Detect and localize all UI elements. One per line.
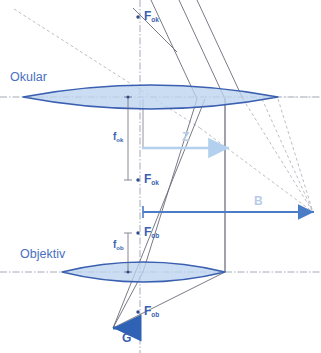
diagram-svg xyxy=(0,0,321,353)
focal-length-label-f-ok: fok xyxy=(113,132,123,142)
focal-length-measures xyxy=(124,97,132,272)
f-ok-length-sub: ok xyxy=(116,137,123,143)
dashed-construction-rays xyxy=(14,9,318,212)
f-ok-top-sub: ok xyxy=(151,16,159,23)
f-ok-mid-sub: ok xyxy=(151,179,159,186)
z-label: Z xyxy=(182,131,189,143)
okular-lens xyxy=(23,85,278,109)
focal-point-label-f-ok-top: Fok xyxy=(144,10,159,22)
objektiv-center-dot xyxy=(127,271,130,274)
f-ob-length-sub: ob xyxy=(116,245,123,251)
objektiv-label: Objektiv xyxy=(20,248,65,261)
focal-point-label-f-ok-mid: Fok xyxy=(144,173,159,185)
focal-dot-f-ob-lower xyxy=(136,310,139,313)
focal-dot-f-ok-mid xyxy=(136,178,139,181)
b-label: B xyxy=(254,195,263,207)
focal-dot-f-ok-top xyxy=(136,15,139,18)
okular-center-dot xyxy=(127,96,130,99)
focal-point-label-f-ob-lower: Fob xyxy=(144,305,159,317)
focal-dot-f-ob-upper xyxy=(136,231,139,234)
f-ob-lower-sub: ob xyxy=(151,311,159,318)
focal-point-label-f-ob-upper: Fob xyxy=(144,226,159,238)
objektiv-lens xyxy=(62,262,225,282)
f-ob-upper-sub: ob xyxy=(151,232,159,239)
g-label: G xyxy=(122,332,131,344)
okular-label: Okular xyxy=(10,71,47,84)
focal-length-label-f-ob: fob xyxy=(113,240,124,250)
optics-diagram-canvas: Okular Objektiv Fok Fok Fob Fob fok fob … xyxy=(0,0,321,353)
